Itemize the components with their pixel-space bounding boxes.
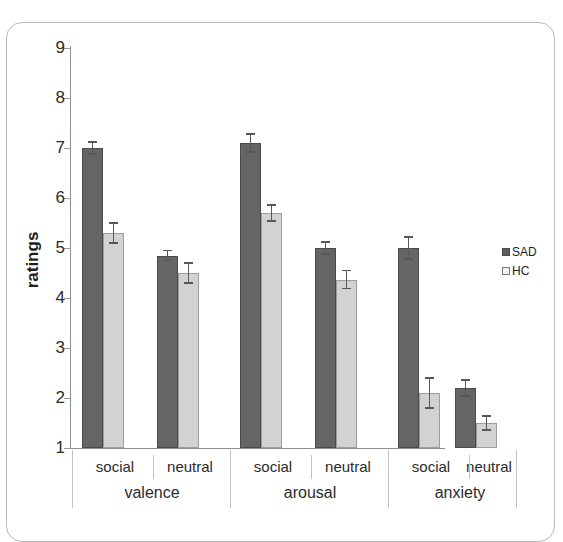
error-bar-valence-neutral-hc [188, 263, 189, 283]
error-cap-upper [88, 141, 97, 142]
error-cap-upper [321, 241, 330, 242]
error-cap-lower [342, 288, 351, 289]
sub-axis-label: neutral [153, 458, 227, 475]
group-divider [230, 450, 231, 508]
error-cap-lower [267, 220, 276, 221]
bar-anxiety-social-sad [398, 248, 419, 448]
sub-axis-label: neutral [452, 458, 526, 475]
bar-arousal-neutral-hc [336, 280, 357, 449]
legend-label: HC [512, 262, 529, 281]
error-bar-arousal-neutral-sad [325, 242, 326, 254]
error-cap-lower [163, 260, 172, 261]
y-tick-label: 6 [35, 189, 65, 206]
error-cap-lower [246, 151, 255, 152]
sub-category-divider [153, 455, 154, 479]
y-tick-label: 2 [35, 389, 65, 406]
y-tick-label: 3 [35, 339, 65, 356]
error-bar-valence-social-sad [92, 142, 93, 154]
y-tick-label: 1 [35, 439, 65, 456]
error-cap-lower [461, 395, 470, 396]
error-cap-upper [342, 270, 351, 271]
sub-axis-label: neutral [311, 458, 385, 475]
bar-anxiety-neutral-sad [455, 388, 476, 448]
legend-item-sad: SAD [502, 243, 537, 262]
sub-category-divider [469, 455, 470, 479]
y-tick [64, 448, 71, 449]
error-cap-upper [109, 222, 118, 223]
error-bar-arousal-social-sad [250, 134, 251, 152]
bar-valence-social-sad [82, 148, 103, 448]
chart-legend: SADHC [502, 243, 537, 280]
bar-arousal-social-hc [261, 213, 282, 448]
group-divider [516, 450, 517, 508]
error-bar-valence-social-hc [113, 223, 114, 243]
error-cap-upper [184, 262, 193, 263]
bar-valence-neutral-sad [157, 256, 178, 449]
error-cap-lower [184, 282, 193, 283]
error-cap-upper [163, 250, 172, 251]
y-tick-label: 9 [35, 39, 65, 56]
error-cap-upper [482, 415, 491, 416]
error-cap-upper [246, 133, 255, 134]
sub-axis-label: social [236, 458, 310, 475]
y-tick-label: 4 [35, 289, 65, 306]
group-axis-label: anxiety [395, 484, 525, 502]
error-cap-upper [404, 236, 413, 237]
error-bar-arousal-neutral-hc [346, 271, 347, 289]
bar-valence-neutral-hc [178, 273, 199, 448]
light-square-icon [502, 267, 510, 275]
bar-arousal-social-sad [240, 143, 261, 448]
error-cap-upper [461, 379, 470, 380]
error-cap-lower [404, 258, 413, 259]
error-cap-lower [88, 153, 97, 154]
error-bar-anxiety-neutral-hc [486, 416, 487, 430]
group-divider [72, 450, 73, 508]
y-tick [64, 398, 71, 399]
sub-axis-label: social [78, 458, 152, 475]
error-bar-anxiety-neutral-sad [465, 380, 466, 396]
error-cap-upper [267, 204, 276, 205]
sub-category-divider [311, 455, 312, 479]
error-cap-lower [109, 242, 118, 243]
y-tick-label: 5 [35, 239, 65, 256]
legend-item-hc: HC [502, 262, 537, 281]
y-tick [64, 198, 71, 199]
group-divider [388, 450, 389, 508]
group-axis-label: valence [87, 484, 217, 502]
y-tick [64, 148, 71, 149]
error-bar-arousal-social-hc [271, 205, 272, 221]
y-tick [64, 248, 71, 249]
error-bar-anxiety-social-hc [429, 378, 430, 408]
error-bar-anxiety-social-sad [408, 237, 409, 259]
legend-label: SAD [512, 243, 537, 262]
group-axis-label: arousal [245, 484, 375, 502]
y-tick [64, 348, 71, 349]
y-tick [64, 48, 71, 49]
y-tick [64, 298, 71, 299]
dark-square-icon [502, 248, 510, 256]
error-cap-lower [482, 429, 491, 430]
bar-valence-social-hc [103, 233, 124, 448]
error-cap-upper [425, 377, 434, 378]
y-tick-label: 7 [35, 139, 65, 156]
y-tick [64, 98, 71, 99]
error-cap-lower [321, 253, 330, 254]
error-cap-lower [425, 407, 434, 408]
bar-arousal-neutral-sad [315, 248, 336, 448]
y-tick-label: 8 [35, 89, 65, 106]
